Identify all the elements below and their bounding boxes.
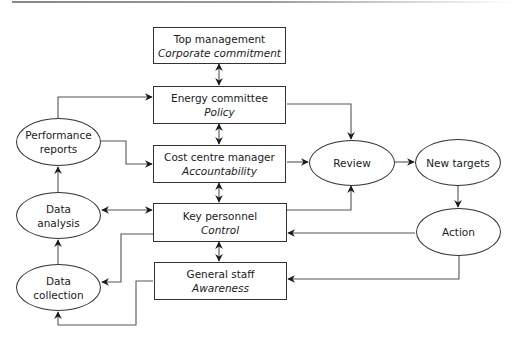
box-top-management: Top management Corporate commitment: [153, 27, 286, 64]
box-subtitle: Policy: [204, 105, 235, 119]
box-title: General staff: [187, 267, 255, 281]
box-title: Top management: [174, 32, 265, 46]
box-title: Cost centre manager: [164, 150, 275, 164]
box-subtitle: Accountability: [182, 164, 257, 178]
ellipse-line2: reports: [40, 142, 78, 156]
ellipse-line2: analysis: [37, 216, 80, 230]
link-perf-energy: [58, 97, 152, 118]
ellipse-line1: Performance: [25, 128, 92, 142]
ellipse-label: New targets: [426, 156, 490, 170]
box-title: Key personnel: [183, 209, 257, 223]
ellipse-line1: Data: [46, 202, 71, 216]
link-perf-cost: [100, 141, 152, 164]
ellipse-action: Action: [416, 208, 501, 256]
ellipse-review: Review: [309, 140, 395, 186]
link-key-collection: [102, 234, 153, 282]
ellipse-label: Action: [442, 225, 475, 239]
ellipse-line1: Data: [46, 274, 71, 288]
ellipse-performance-reports: Performance reports: [16, 118, 101, 166]
ellipse-label: Review: [333, 156, 370, 170]
box-title: Energy committee: [171, 91, 268, 105]
box-subtitle: Awareness: [192, 281, 249, 295]
box-cost-centre-manager: Cost centre manager Accountability: [153, 145, 286, 183]
box-general-staff: General staff Awareness: [154, 262, 287, 300]
box-subtitle: Corporate commitment: [158, 46, 281, 60]
link-action-general: [288, 256, 459, 279]
ellipse-data-analysis: Data analysis: [16, 192, 101, 239]
ellipse-new-targets: New targets: [415, 139, 501, 186]
box-energy-committee: Energy committee Policy: [153, 86, 286, 124]
link-energy-review: [287, 104, 351, 139]
box-subtitle: Control: [201, 223, 239, 237]
link-key-review: [287, 186, 351, 210]
ellipse-data-collection: Data collection: [16, 264, 101, 311]
ellipse-line2: collection: [33, 288, 83, 302]
box-key-personnel: Key personnel Control: [153, 203, 287, 242]
